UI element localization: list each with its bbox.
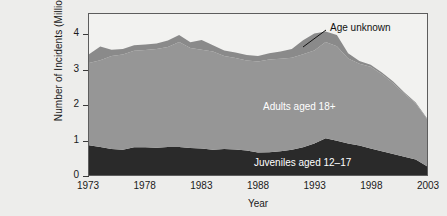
y-tick-label: 3 xyxy=(49,63,79,74)
annotation-age-unknown: Age unknown xyxy=(330,22,391,33)
y-tick-label: 4 xyxy=(49,27,79,38)
x-tick-label: 1998 xyxy=(349,180,393,191)
annotation-adults: Adults aged 18+ xyxy=(263,101,336,112)
x-axis-label: Year xyxy=(88,198,428,209)
y-tick-mark xyxy=(83,176,89,177)
y-tick-label: 0 xyxy=(49,169,79,180)
x-tick-label: 1988 xyxy=(236,180,280,191)
x-tick-label: 1993 xyxy=(293,180,337,191)
y-tick-label: 2 xyxy=(49,98,79,109)
y-axis-label-wrap: Number of Incidents (Millions) xyxy=(30,20,44,170)
stacked-area-plot xyxy=(89,14,427,175)
chart-container: Number of Incidents (Millions) 01234 197… xyxy=(0,0,447,216)
x-tick-label: 1983 xyxy=(179,180,223,191)
plot-area xyxy=(88,13,428,176)
annotation-juveniles: Juveniles aged 12–17 xyxy=(254,157,351,168)
x-tick-label: 2003 xyxy=(406,180,447,191)
y-tick-label: 1 xyxy=(49,134,79,145)
x-tick-label: 1978 xyxy=(123,180,167,191)
x-tick-label: 1973 xyxy=(66,180,110,191)
